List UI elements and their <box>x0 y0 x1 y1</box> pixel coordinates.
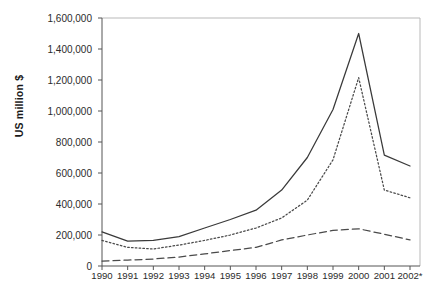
x-axis-tick-label: 1998 <box>297 270 318 281</box>
series-dashed <box>102 229 410 261</box>
x-axis-tick-label: 1994 <box>194 270 215 281</box>
x-axis-tick-label: 1999 <box>322 270 343 281</box>
x-axis-tick-label: 2001 <box>374 270 395 281</box>
x-axis-tick-label: 1996 <box>245 270 266 281</box>
x-axis-tick-label: 1995 <box>220 270 241 281</box>
series-dotted <box>102 78 410 249</box>
x-axis-tick-label: 1992 <box>143 270 164 281</box>
x-axis-tick-label: 1997 <box>271 270 292 281</box>
x-axis-tick-label: 2002* <box>397 270 422 281</box>
line-chart: US million $ 0200,000400,000600,000800,0… <box>0 0 427 297</box>
series-solid <box>102 34 410 242</box>
x-axis-tick-label: 1991 <box>117 270 138 281</box>
plot-area <box>0 0 427 297</box>
x-axis-tick-label: 2000 <box>348 270 369 281</box>
x-axis-tick-label: 1990 <box>91 270 112 281</box>
x-axis-tick-label: 1993 <box>168 270 189 281</box>
